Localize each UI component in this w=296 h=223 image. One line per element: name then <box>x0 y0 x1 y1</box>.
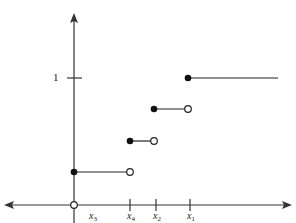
open-dot <box>127 169 134 176</box>
step-segment-2 <box>127 138 158 145</box>
closed-dot <box>71 169 78 176</box>
x-label-x2: x2 <box>152 210 161 223</box>
closed-dot <box>127 138 134 145</box>
open-dot <box>185 106 192 113</box>
step-segment-3 <box>151 106 192 113</box>
x-label-x1: x1 <box>186 210 195 223</box>
origin-open-circle <box>71 202 78 209</box>
open-dot <box>151 138 158 145</box>
x-label-x4: x4 <box>126 210 135 223</box>
step-segment-4 <box>185 75 278 82</box>
y-axis <box>67 13 82 223</box>
closed-dot <box>185 75 192 82</box>
y-tick-label: 1 <box>53 71 59 83</box>
x-label-x3: x3 <box>88 210 97 223</box>
x-axis <box>4 201 292 209</box>
step-function-diagram: 1 x3 x4 x2 x1 <box>0 0 296 223</box>
step-segment-1 <box>71 169 134 176</box>
closed-dot <box>151 106 158 113</box>
